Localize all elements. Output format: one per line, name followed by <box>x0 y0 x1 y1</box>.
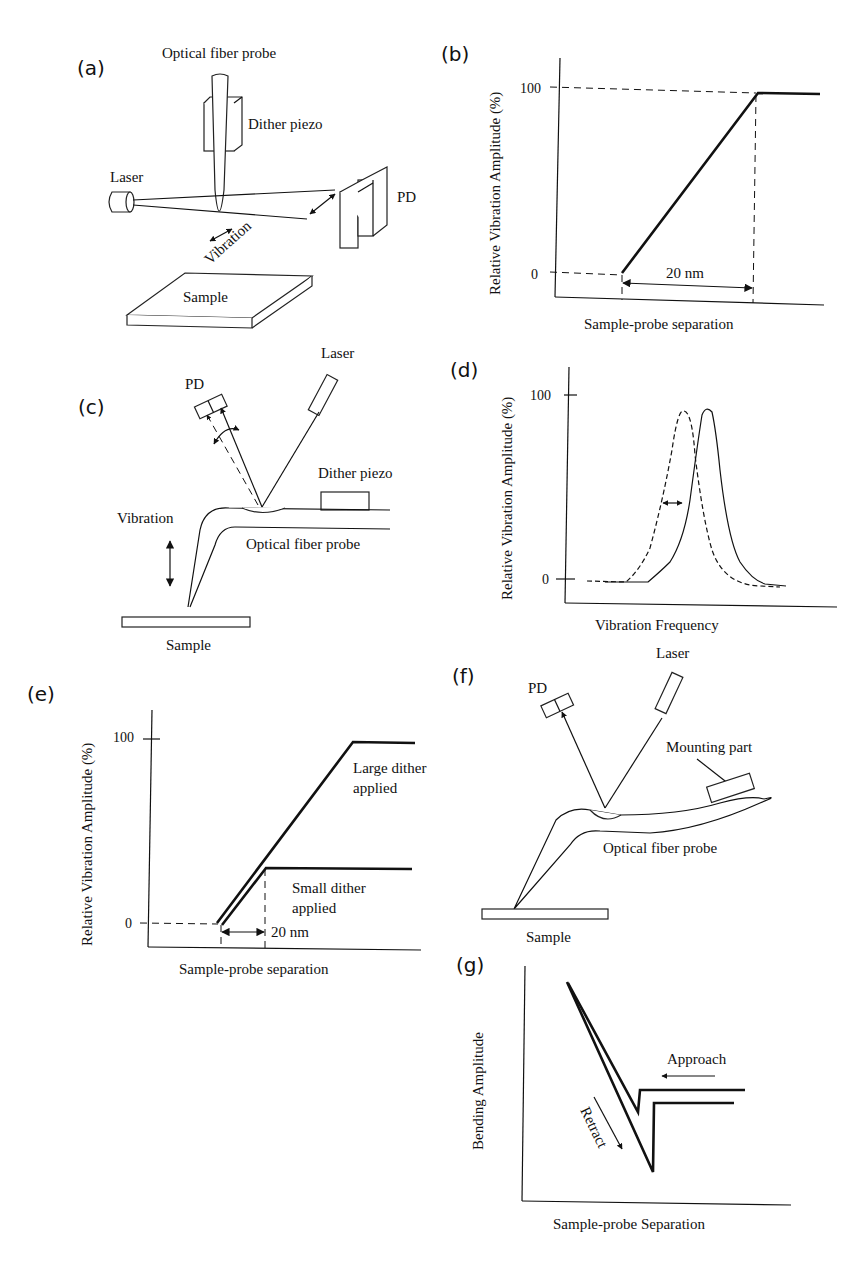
panel-label-e: (e) <box>27 682 55 706</box>
y-axis-label: Relative Vibration Amplitude (%) <box>79 743 96 946</box>
free-resonance-curve <box>605 409 786 586</box>
label-large-dither-1: Large dither <box>353 760 426 776</box>
panel-d-chart: (d) Relative Vibration Amplitude (%) 100… <box>450 358 837 633</box>
mirror-spot <box>590 810 621 819</box>
photodetector-shape <box>541 693 574 717</box>
annotation-20nm: 20 nm <box>271 924 309 940</box>
mirror-spot <box>242 508 285 513</box>
label-small-dither-1: Small dither <box>292 880 366 896</box>
label-approach: Approach <box>667 1051 727 1067</box>
reflected-beam <box>221 408 262 507</box>
x-axis <box>555 297 824 305</box>
laser-source-shape <box>308 375 337 416</box>
panel-label-a: (a) <box>77 56 105 80</box>
panel-label-f: (f) <box>452 664 475 688</box>
distance-arrow <box>623 283 752 288</box>
fiber-probe-shape <box>188 508 390 607</box>
panel-label-c: (c) <box>78 395 105 419</box>
label-laser: Laser <box>656 645 689 661</box>
x-axis-label: Sample-probe separation <box>179 961 329 977</box>
label-sample: Sample <box>183 289 228 305</box>
label-optical-fiber-probe: Optical fiber probe <box>162 45 276 61</box>
label-vibration: Vibration <box>117 510 174 526</box>
panel-b-chart: (b) Relative Vibration Amplitude (%) 100… <box>441 42 824 332</box>
y-axis <box>555 58 560 297</box>
panel-label-b: (b) <box>441 42 469 66</box>
annotation-20nm: 20 nm <box>666 265 704 281</box>
sample-slab-shape <box>122 617 250 627</box>
y-tick-0: 0 <box>531 267 538 282</box>
pd-position-arrow <box>310 194 335 214</box>
panel-g-chart: (g) Bending Amplitude Approach Retract S… <box>456 953 791 1232</box>
y-axis-label: Relative Vibration Amplitude (%) <box>487 92 504 295</box>
x-axis <box>565 603 837 607</box>
panel-c: (c) Laser PD Dither piezo Vibration Opti… <box>78 345 393 653</box>
fiber-probe-shape <box>212 74 228 211</box>
y-tick-0: 0 <box>125 916 132 931</box>
amplitude-curve <box>622 93 820 273</box>
label-retract: Retract <box>577 1104 611 1151</box>
y-tick-100: 100 <box>530 388 551 403</box>
label-dither-piezo: Dither piezo <box>248 116 323 132</box>
label-small-dither-2: applied <box>292 900 337 916</box>
label-mounting-part: Mounting part <box>666 739 753 755</box>
y-axis-label: Bending Amplitude <box>470 1032 486 1150</box>
label-sample: Sample <box>526 929 571 945</box>
label-vibration: Vibration <box>201 217 254 267</box>
label-optical-fiber-probe: Optical fiber probe <box>246 536 360 552</box>
y-tick-100: 100 <box>113 730 134 745</box>
x-axis-label: Sample-probe separation <box>584 316 734 332</box>
shifted-resonance-curve <box>587 411 780 587</box>
label-pd: PD <box>397 189 416 205</box>
retract-curve <box>567 982 734 1172</box>
laser-source-shape <box>109 192 134 212</box>
y-tick-100: 100 <box>520 81 541 96</box>
label-optical-fiber-probe: Optical fiber probe <box>603 840 717 856</box>
panel-a: (a) Optical fiber probe Dither piezo Las… <box>77 45 416 328</box>
y-tick-0: 0 <box>542 572 549 587</box>
approach-curve <box>568 983 745 1112</box>
y-axis <box>148 710 152 947</box>
dither-piezo-shape <box>321 492 369 510</box>
label-large-dither-2: applied <box>353 780 398 796</box>
panel-label-g: (g) <box>456 953 484 977</box>
label-sample: Sample <box>166 637 211 653</box>
incident-beam <box>262 412 319 507</box>
x-axis <box>148 947 421 950</box>
x-axis-label: Vibration Frequency <box>595 617 719 633</box>
photodetector-shape <box>340 167 387 248</box>
panel-f: (f) Laser PD Mounting part Optical fiber… <box>452 645 771 945</box>
x-axis <box>522 1201 791 1205</box>
incident-beam <box>605 718 662 808</box>
y-axis <box>565 367 569 603</box>
laser-source-shape <box>655 672 683 713</box>
reflected-beam <box>562 712 605 808</box>
label-pd: PD <box>528 680 547 696</box>
sample-slab-shape <box>482 909 608 919</box>
label-laser: Laser <box>321 345 354 361</box>
y-axis <box>522 966 525 1201</box>
x-axis-label: Sample-probe Separation <box>553 1216 706 1232</box>
label-pd: PD <box>185 376 204 392</box>
photodetector-shape <box>194 394 227 418</box>
label-dither-piezo: Dither piezo <box>318 465 393 481</box>
panel-label-d: (d) <box>450 358 478 382</box>
y-axis-label: Relative Vibration Amplitude (%) <box>499 397 516 600</box>
panel-e-chart: (e) Relative Vibration Amplitude (%) 100… <box>27 682 426 977</box>
label-laser: Laser <box>110 169 143 185</box>
